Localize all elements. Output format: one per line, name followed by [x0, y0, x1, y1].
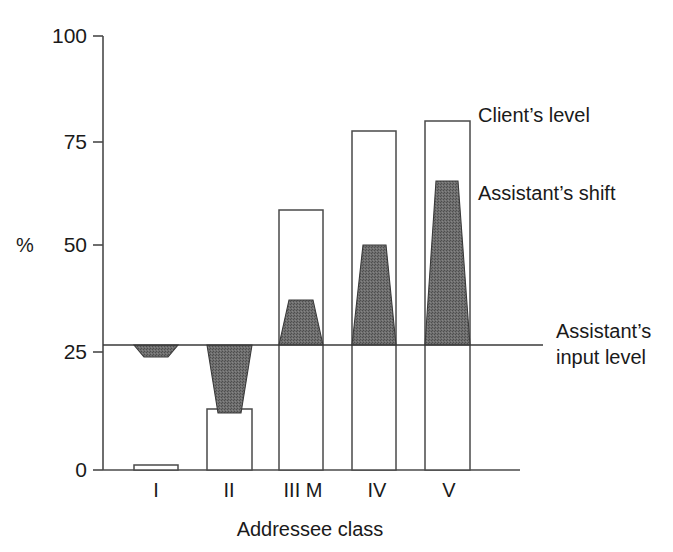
annotation-assistants-input-level-line2: input level [556, 346, 646, 368]
chart-annotations: Client’s level Assistant’s shift Assista… [478, 104, 651, 368]
x-tick-label-iii-m: III M [284, 479, 323, 501]
clients-level-bars [134, 121, 470, 470]
x-axis-title: Addressee class [237, 518, 384, 540]
y-axis-label: % [16, 234, 34, 256]
annotation-assistants-input-level-line1: Assistant’s [556, 320, 651, 342]
x-tick-label-iv: IV [368, 479, 388, 501]
y-tick-label-75: 75 [64, 130, 87, 153]
annotation-clients-level: Client’s level [478, 104, 590, 126]
x-tick-label-i: I [153, 479, 159, 501]
bar-client-ii [207, 409, 252, 470]
addressee-class-chart: 100 75 50 25 0 % I II III M IV V Address… [0, 0, 673, 552]
x-axis: I II III M IV V Addressee class [103, 470, 520, 540]
y-tick-label-50: 50 [64, 233, 87, 256]
y-axis: 100 75 50 25 0 % [16, 24, 103, 481]
annotation-assistants-shift: Assistant’s shift [478, 182, 616, 204]
y-tick-label-100: 100 [52, 24, 87, 47]
y-tick-label-25: 25 [64, 340, 87, 363]
x-tick-label-v: V [442, 479, 456, 501]
shift-shape-ii [207, 345, 252, 413]
bar-client-i [134, 465, 178, 470]
x-tick-label-ii: II [223, 479, 234, 501]
chart-container: 100 75 50 25 0 % I II III M IV V Address… [0, 0, 673, 552]
y-tick-label-0: 0 [75, 458, 87, 481]
shift-shape-i [134, 345, 178, 357]
